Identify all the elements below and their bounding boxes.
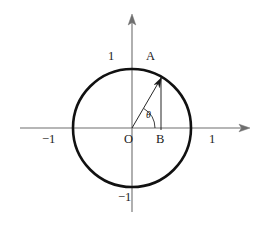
y-axis-tick-label-positive-one: 1 xyxy=(108,50,114,63)
origin-label-o: O xyxy=(124,133,133,146)
point-label-b: B xyxy=(156,133,164,146)
point-label-a: A xyxy=(146,50,155,63)
x-axis-tick-label-positive-one: 1 xyxy=(209,133,215,146)
y-axis-tick-label-negative-one: −1 xyxy=(118,191,131,204)
radius-vector-line xyxy=(132,83,159,129)
radius-vector-arrowhead xyxy=(154,78,161,88)
x-axis-tick-label-negative-one: −1 xyxy=(42,133,55,146)
angle-label-theta: θ xyxy=(146,110,151,120)
unit-circle-figure: 1 A −1 O B 1 −1 θ xyxy=(0,0,260,226)
